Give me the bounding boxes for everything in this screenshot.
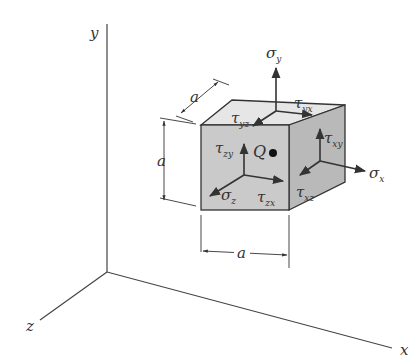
point-q-marker [269, 149, 277, 157]
y-axis-label: y [89, 24, 99, 42]
height-dimension-label: a [157, 152, 166, 170]
x-axis-label: x [400, 341, 409, 359]
sigma-y-label: σy [266, 44, 282, 64]
width-dimension-label: a [237, 244, 246, 262]
z-axis-label: z [25, 317, 34, 335]
point-q-label: Q [253, 142, 266, 161]
z-axis [40, 272, 107, 320]
cube-front-face [201, 125, 289, 210]
tau-yx-label: τyx [294, 94, 312, 114]
x-axis [107, 272, 392, 348]
depth-dimension-label: a [190, 88, 199, 106]
stress-element-diagram: y x z a a a [0, 0, 419, 363]
sigma-x-label: σx [369, 164, 384, 184]
